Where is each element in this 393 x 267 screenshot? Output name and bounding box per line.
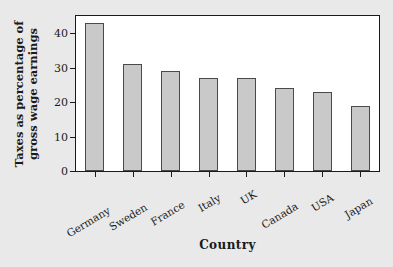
y-axis-title-line-2: gross wage earnings bbox=[26, 20, 40, 166]
bar bbox=[237, 78, 256, 171]
x-tick-mark bbox=[133, 171, 134, 177]
bar bbox=[199, 78, 218, 171]
y-axis-title-text: Taxes as percentage of gross wage earnin… bbox=[12, 20, 41, 166]
y-axis-title: Taxes as percentage of gross wage earnin… bbox=[10, 15, 42, 172]
x-tick-mark bbox=[360, 171, 361, 177]
x-tick-label-text: Canada bbox=[260, 200, 301, 231]
x-tick-label: UK bbox=[253, 179, 273, 198]
bar-series: GermanySwedenFranceItalyUKCanadaUSAJapan bbox=[76, 16, 379, 171]
y-tick-label: 0 bbox=[61, 165, 68, 178]
y-tick-label: 30 bbox=[54, 61, 68, 74]
y-tick-label: 20 bbox=[54, 96, 68, 109]
y-tick-label: 10 bbox=[54, 130, 68, 143]
x-tick-mark bbox=[322, 171, 323, 177]
bar bbox=[123, 64, 142, 171]
y-tick-label: 40 bbox=[54, 27, 68, 40]
y-tick-mark bbox=[70, 171, 76, 172]
chart-figure: Taxes as percentage of gross wage earnin… bbox=[0, 0, 393, 267]
x-tick-mark bbox=[284, 171, 285, 177]
bar bbox=[351, 106, 370, 171]
x-tick-label: Japan bbox=[368, 179, 393, 205]
x-tick-label-text: Germany bbox=[64, 204, 112, 239]
bar bbox=[275, 88, 294, 171]
x-tick-label-text: UK bbox=[239, 188, 259, 207]
x-axis-title: Country bbox=[75, 238, 380, 252]
bar bbox=[313, 92, 332, 171]
plot-area: 010203040 GermanySwedenFranceItalyUKCana… bbox=[75, 15, 380, 172]
x-tick-label: USA bbox=[330, 179, 356, 201]
x-tick-mark bbox=[95, 171, 96, 177]
bar bbox=[85, 23, 104, 171]
x-tick-label-text: Japan bbox=[342, 195, 374, 221]
y-axis-title-line-1: Taxes as percentage of bbox=[12, 20, 26, 166]
x-tick-mark bbox=[246, 171, 247, 177]
x-tick-mark bbox=[209, 171, 210, 177]
bar bbox=[161, 71, 180, 171]
x-tick-mark bbox=[171, 171, 172, 177]
